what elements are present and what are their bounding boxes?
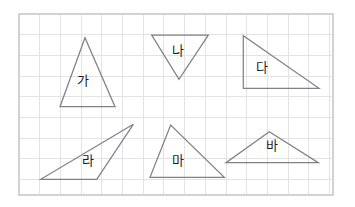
triangle-da-outline[interactable]	[243, 36, 319, 89]
worksheet-canvas: 가나다라마바	[0, 0, 355, 207]
triangle-na[interactable]: 나	[152, 35, 209, 79]
triangle-ra-label: 라	[82, 153, 94, 168]
triangle-ra[interactable]: 라	[41, 124, 134, 179]
triangle-ga-label: 가	[77, 73, 89, 88]
grid-frame	[19, 14, 333, 195]
worksheet-svg: 가나다라마바	[0, 0, 355, 207]
grid-lines	[19, 14, 333, 195]
triangle-ma-label: 마	[172, 153, 184, 168]
triangle-ba-label: 바	[266, 138, 278, 153]
triangle-ma-outline[interactable]	[150, 125, 224, 177]
triangle-da[interactable]: 다	[243, 36, 319, 89]
triangle-na-label: 나	[172, 43, 184, 58]
triangle-ba[interactable]: 바	[226, 132, 318, 163]
triangle-da-label: 다	[256, 60, 268, 75]
shapes-layer: 가나다라마바	[41, 35, 319, 179]
triangle-ma[interactable]: 마	[150, 125, 224, 177]
